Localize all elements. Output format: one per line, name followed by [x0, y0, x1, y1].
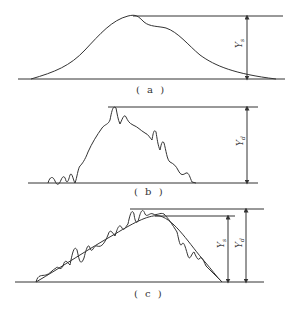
caption-c: ( c )	[134, 288, 164, 299]
panel-c	[15, 209, 264, 282]
ys-label-a: Ys	[234, 39, 245, 48]
panel-b	[28, 107, 258, 184]
noisy-curve-c	[36, 211, 222, 282]
yd-label-b: Yd	[235, 136, 246, 146]
panel-a	[18, 15, 285, 79]
caption-b: ( b )	[134, 186, 165, 197]
caption-a: ( a )	[136, 84, 166, 95]
noisy-curve-b	[48, 107, 196, 184]
smooth-curve-c	[36, 216, 222, 282]
ys-label-c: Ys	[216, 239, 227, 248]
figure-canvas: Ys Yd Ys Yd	[0, 0, 295, 315]
yd-label-c: Yd	[234, 238, 245, 248]
